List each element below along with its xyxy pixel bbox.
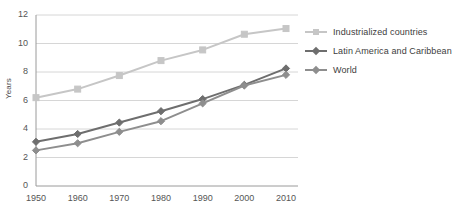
data-point-marker <box>33 95 39 101</box>
data-point-marker <box>200 47 206 53</box>
data-point-marker <box>116 119 123 126</box>
legend-label: World <box>333 65 357 75</box>
series-line <box>36 68 286 141</box>
data-point-marker <box>158 58 164 64</box>
chart-legend: Industrialized countries Latin America a… <box>305 22 452 79</box>
series-latin-america-and-caribbean <box>32 65 289 146</box>
legend-marker-icon <box>305 65 327 75</box>
series-industrialized-countries <box>33 26 289 101</box>
data-point-marker <box>157 108 164 115</box>
legend-label: Latin America and Caribbean <box>333 46 452 56</box>
legend-marker-icon <box>305 46 327 56</box>
legend-item-latin-america-and-caribbean[interactable]: Latin America and Caribbean <box>305 41 452 60</box>
legend-label: Industrialized countries <box>333 27 427 37</box>
data-point-marker <box>157 118 164 125</box>
data-point-marker <box>74 140 81 147</box>
data-point-marker <box>32 147 39 154</box>
data-point-marker <box>241 31 247 37</box>
chart-figure: Years 024681012 195019601970198019902000… <box>0 0 452 211</box>
data-point-marker <box>116 73 122 79</box>
legend-item-industrialized-countries[interactable]: Industrialized countries <box>305 22 452 41</box>
data-point-marker <box>75 86 81 92</box>
legend-marker-icon <box>305 27 327 37</box>
legend-item-world[interactable]: World <box>305 60 452 79</box>
data-point-marker <box>32 138 39 145</box>
data-point-marker <box>74 130 81 137</box>
data-point-marker <box>283 26 289 32</box>
